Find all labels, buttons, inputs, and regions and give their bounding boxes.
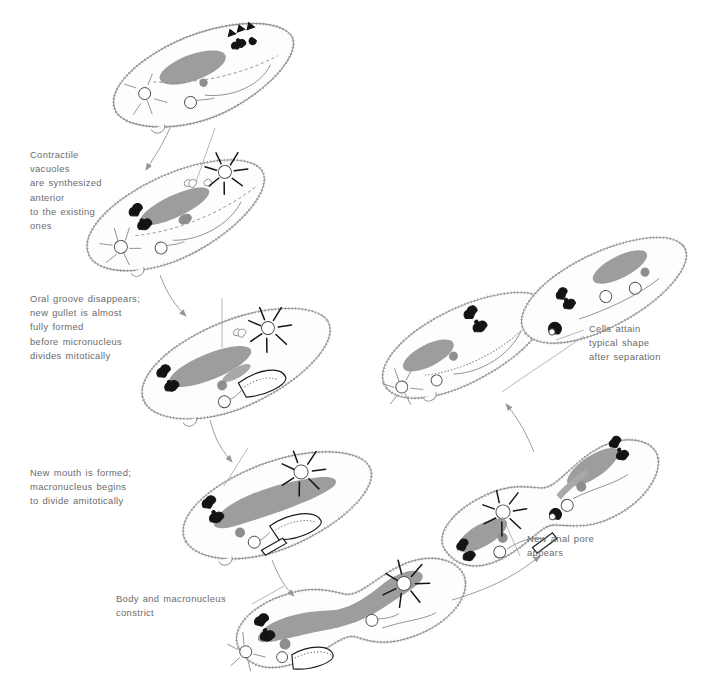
annotation-body-constrict: Body and macronucleus constrict bbox=[116, 592, 281, 620]
cell-membrane bbox=[368, 270, 563, 418]
annotation-cells-attain-shape: Cells attain typical shape after separat… bbox=[589, 322, 704, 365]
stage-1-interphase bbox=[100, 3, 309, 148]
stage-6-anal-pore bbox=[429, 424, 674, 584]
arrow-3-to-4 bbox=[210, 420, 232, 462]
paramecium-division-diagram: Contractile vacuoles are synthesized ant… bbox=[0, 0, 704, 684]
stage-7-daughter-lower bbox=[365, 270, 563, 420]
annotation-oral-groove: Oral groove disappears; new gullet is al… bbox=[30, 292, 210, 363]
annotation-new-mouth: New mouth is formed; macronucleus begins… bbox=[30, 466, 205, 509]
annotation-new-anal-pore: New anal pore appears bbox=[527, 532, 657, 560]
arrow-6-to-7 bbox=[506, 404, 534, 452]
annotation-contractile-vacuoles: Contractile vacuoles are synthesized ant… bbox=[30, 148, 180, 233]
